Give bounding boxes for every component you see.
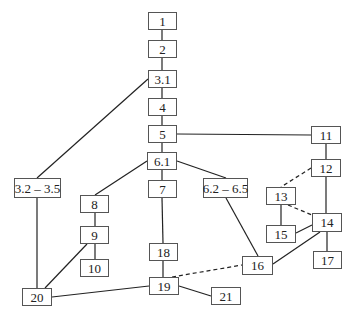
node-19: 19 [149,277,179,295]
node-1: 1 [148,12,177,30]
edge-19-to-21 [179,286,211,296]
edge-20-to-19 [52,286,149,297]
node-5: 5 [148,125,177,143]
edge-12-to-13 [281,168,311,187]
edge-19-to-16 [172,265,242,277]
node-3.1: 3.1 [148,70,177,88]
edge-6.1-to-8 [95,161,147,195]
node-7: 7 [148,180,177,198]
node-17: 17 [313,251,342,269]
node-6.1: 6.1 [147,152,177,170]
node-6.2-6.5: 6.2 – 6.5 [203,178,248,198]
dependency-diagram: 123.1456.173.2 – 3.56.2 – 6.589101112131… [0,0,358,319]
edge-3.1-to-3.2-3.5 [37,79,148,178]
node-15: 15 [266,225,296,243]
node-2: 2 [148,40,177,58]
edge-6.2-6.5-to-16 [226,198,258,256]
node-4: 4 [148,98,177,116]
node-12: 12 [311,159,341,177]
node-20: 20 [22,288,52,306]
edge-5-to-11 [177,134,311,135]
node-8: 8 [80,195,109,213]
node-16: 16 [242,256,273,275]
edge-7-to-18 [162,198,163,243]
edge-13-to-14 [288,205,312,215]
node-21: 21 [211,287,241,305]
edge-layer [0,0,358,319]
node-13: 13 [266,187,296,205]
edge-15-to-14 [296,225,312,233]
node-18: 18 [149,243,178,261]
edge-6.1-to-6.2-6.5 [177,161,226,178]
node-10: 10 [80,259,109,277]
node-3.2-3.5: 3.2 – 3.5 [14,178,61,198]
node-11: 11 [311,126,341,144]
node-9: 9 [80,226,109,244]
node-14: 14 [312,213,342,232]
